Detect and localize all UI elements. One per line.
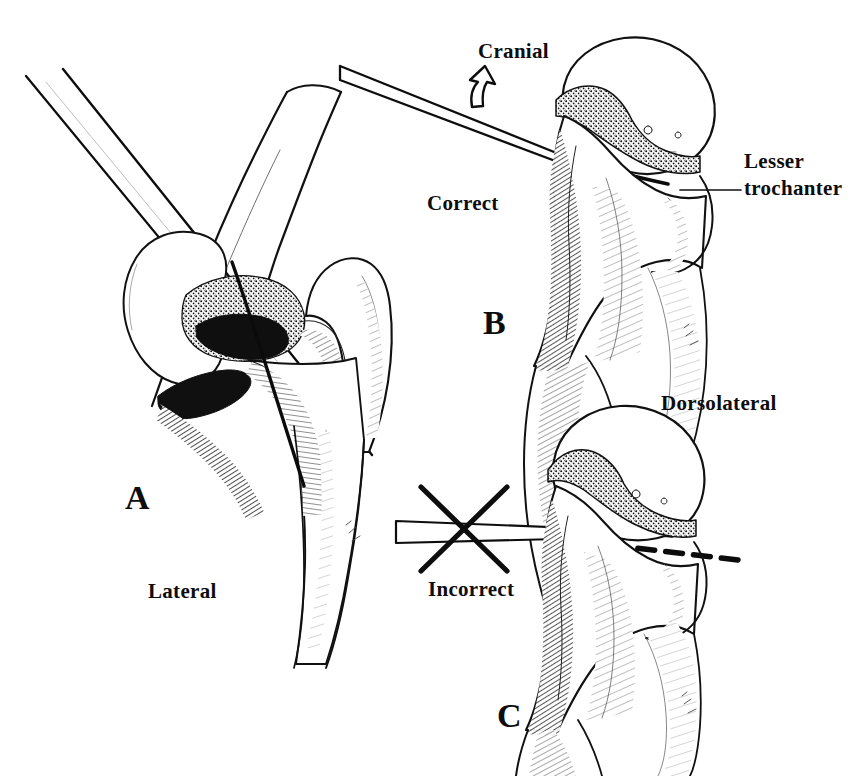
anatomical-illustration: [0, 0, 862, 776]
lesser-trochanter-label: Lessertrochanter: [744, 148, 842, 203]
panel-letter-c: C: [497, 697, 522, 735]
panel-letter-b: B: [483, 304, 506, 342]
figure-canvas: Cranial Lessertrochanter Correct B Dorso…: [0, 0, 862, 776]
panel-letter-a: A: [125, 479, 150, 517]
lesser-trochanter-label-line1: Lesser: [744, 149, 804, 173]
correct-status-label: Correct: [427, 192, 499, 216]
cranial-direction-label: Cranial: [478, 40, 549, 64]
dorsolateral-view-label: Dorsolateral: [661, 392, 777, 416]
figure-background: [0, 0, 862, 776]
incorrect-status-label: Incorrect: [428, 578, 514, 602]
lesser-trochanter-label-line2: trochanter: [744, 176, 842, 200]
lateral-view-label: Lateral: [148, 580, 217, 604]
